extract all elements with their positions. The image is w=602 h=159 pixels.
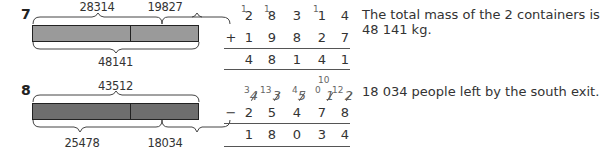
digit: 4 [334,8,356,23]
brace-top [32,12,200,26]
struck-digit: 4 [243,88,265,103]
digit: 3 [311,127,333,142]
brace-bottom [32,120,200,134]
struck-digit: 2 [338,88,360,103]
divider-line [224,69,350,70]
digit: 1 [238,30,260,45]
digit: 2 [238,8,260,23]
digit: 1 [311,8,333,23]
digit: 3 [286,8,308,23]
divider-line [224,146,350,147]
question-number: 8 [21,82,31,98]
bar-label-bottom-right: 18034 [130,136,200,150]
struck-digit: 3 [266,88,288,103]
divider-line [224,48,350,49]
digit: 7 [311,105,333,120]
answer-sentence: 18 034 people left by the south exit. [362,84,599,99]
digit: 8 [334,105,356,120]
digit: 8 [261,127,283,142]
question-number: 7 [21,6,31,22]
digit: 4 [334,127,356,142]
digit: 1 [334,52,356,67]
digit: 8 [286,30,308,45]
digit: 1 [238,127,260,142]
divider-line [224,123,350,124]
answer-sentence: The total mass of the 2 containers is 48… [362,7,602,37]
bar-model-7 [32,25,199,42]
brace-bottom [32,42,200,54]
brace-top [32,91,200,103]
struck-digit: 5 [291,88,313,103]
bar-label-bottom-left: 25478 [32,136,132,150]
digit: 2 [311,30,333,45]
digit: 4 [238,52,260,67]
digit: 0 [286,127,308,142]
digit: 4 [311,52,333,67]
digit: 5 [261,105,283,120]
exchange-digit: 10 [318,75,329,85]
digit: 1 [286,52,308,67]
bar-model-8 [32,103,199,120]
digit: 2 [238,105,260,120]
digit: 8 [261,52,283,67]
bar-divider [130,104,131,119]
bar-label-bottom: 48141 [32,55,199,69]
bar-divider [130,26,131,41]
digit: 8 [261,8,283,23]
digit: 4 [286,105,308,120]
digit: 9 [261,30,283,45]
digit: 7 [334,30,356,45]
